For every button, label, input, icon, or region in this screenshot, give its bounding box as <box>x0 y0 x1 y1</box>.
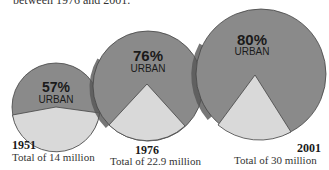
pct-label-1976: 76% <box>133 47 163 64</box>
total-1976: Total of 22.9 million <box>110 155 201 167</box>
urban-label-1951: URBAN <box>38 94 73 105</box>
total-2001: Total of 30 million <box>234 154 317 166</box>
pie-charts: 57% URBAN 76% URBAN 80% URBAN <box>0 0 329 170</box>
pie-1976: 76% URBAN <box>92 31 203 141</box>
urban-label-2001: URBAN <box>234 46 269 57</box>
urban-label-1976: URBAN <box>130 63 165 74</box>
pct-label-1951: 57% <box>42 79 71 95</box>
pie-2001: 80% URBAN <box>194 9 326 140</box>
total-1951: Total of 14 million <box>12 151 95 163</box>
